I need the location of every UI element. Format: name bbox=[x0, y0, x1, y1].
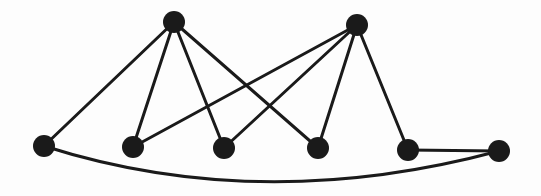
node-B2 bbox=[122, 136, 144, 158]
edge-B5-B6 bbox=[408, 150, 499, 151]
node-B1 bbox=[33, 135, 55, 157]
node-T1 bbox=[163, 11, 185, 33]
edge-T1-B3 bbox=[174, 22, 224, 148]
graph-diagram bbox=[0, 0, 541, 196]
node-B3 bbox=[213, 137, 235, 159]
node-B6 bbox=[488, 140, 510, 162]
node-B4 bbox=[307, 137, 329, 159]
edge-T2-B5 bbox=[357, 25, 408, 150]
edges-group bbox=[44, 22, 499, 182]
node-T2 bbox=[346, 14, 368, 36]
graph-svg bbox=[0, 0, 541, 196]
node-B5 bbox=[397, 139, 419, 161]
